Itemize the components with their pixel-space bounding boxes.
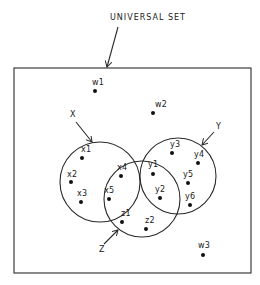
element-label: y2 — [155, 185, 165, 194]
element-x2: x2 — [67, 170, 77, 184]
element-w2: w2 — [151, 100, 167, 115]
element-dot — [196, 161, 200, 165]
element-label: w2 — [155, 100, 167, 109]
element-dot — [144, 227, 148, 231]
element-z2: z2 — [144, 216, 155, 231]
element-y1: y1 — [148, 160, 158, 176]
set-y-circle — [140, 138, 216, 214]
universal-set-title: UNIVERSAL SET — [110, 13, 186, 22]
element-y3: y3 — [170, 140, 180, 155]
element-label: y3 — [170, 140, 180, 149]
element-dot — [69, 180, 73, 184]
element-label: z2 — [145, 216, 155, 225]
element-label: x4 — [117, 163, 127, 172]
venn-diagram: UNIVERSAL SET XYZ w1w2w3x1x2x3x4x5y1y2y3… — [0, 0, 260, 285]
set-x-label: X — [70, 110, 76, 119]
element-x3: x3 — [77, 189, 87, 204]
element-dot — [119, 174, 123, 178]
element-y4: y4 — [194, 150, 204, 165]
element-label: x2 — [67, 170, 77, 179]
element-label: y5 — [183, 170, 193, 179]
element-y2: y2 — [155, 185, 165, 200]
element-dot — [80, 156, 84, 160]
element-z1: z1 — [120, 209, 131, 224]
element-label: x3 — [77, 189, 87, 198]
element-dot — [151, 172, 155, 176]
element-w3: w3 — [198, 241, 210, 257]
element-x1: x1 — [80, 145, 91, 160]
element-y6: y6 — [185, 192, 195, 207]
element-x5: x5 — [104, 186, 114, 201]
element-w1: w1 — [92, 78, 104, 93]
set-z-arrow — [104, 230, 118, 244]
element-label: y1 — [148, 160, 158, 169]
element-dot — [170, 151, 174, 155]
set-x-arrow — [76, 122, 92, 142]
element-dot — [158, 196, 162, 200]
element-label: x5 — [104, 186, 114, 195]
element-dot — [120, 220, 124, 224]
element-label: w1 — [92, 78, 104, 87]
element-label: x1 — [81, 145, 91, 154]
element-dot — [79, 200, 83, 204]
set-z-label: Z — [99, 245, 105, 254]
element-dot — [188, 203, 192, 207]
sets-layer: XYZ — [60, 110, 221, 254]
element-dot — [186, 181, 190, 185]
element-dot — [107, 197, 111, 201]
element-dot — [201, 253, 205, 257]
element-label: y6 — [185, 192, 195, 201]
element-label: w3 — [198, 241, 210, 250]
set-z-circle — [104, 161, 180, 237]
set-y-label: Y — [215, 122, 221, 131]
element-label: y4 — [194, 150, 204, 159]
element-y5: y5 — [183, 170, 193, 185]
element-dot — [93, 89, 97, 93]
element-x4: x4 — [117, 163, 127, 178]
element-label: z1 — [121, 209, 131, 218]
elements-layer: w1w2w3x1x2x3x4x5y1y2y3y4y5y6z1z2 — [67, 78, 210, 257]
set-y-arrow — [202, 132, 214, 145]
element-dot — [151, 111, 155, 115]
universal-set-arrow — [107, 27, 118, 67]
